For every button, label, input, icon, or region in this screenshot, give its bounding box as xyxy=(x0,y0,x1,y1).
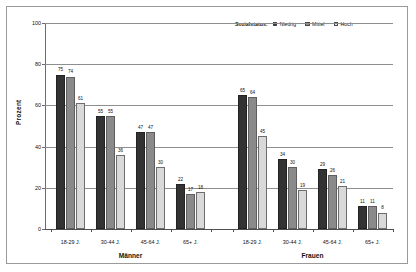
bar-group: 292621 xyxy=(317,23,348,229)
bar-slot: 26 xyxy=(328,23,337,229)
bar-value-label: 74 xyxy=(68,70,73,75)
y-tick-mark xyxy=(42,105,45,106)
plot-area: 0204060801007574615555364747302217186564… xyxy=(45,23,393,229)
y-tick-label: 20 xyxy=(15,185,41,191)
bar-group: 343019 xyxy=(277,23,308,229)
bar-value-label: 22 xyxy=(178,178,183,183)
x-category-label: 45-64 J. xyxy=(323,239,342,245)
bar-value-label: 19 xyxy=(300,184,305,189)
bar[interactable] xyxy=(358,206,367,229)
bar-value-label: 18 xyxy=(198,186,203,191)
bar-slot: 21 xyxy=(338,23,347,229)
x-tick-mark xyxy=(393,229,394,232)
bar-slot: 65 xyxy=(238,23,247,229)
x-tick-mark xyxy=(91,229,92,232)
bar-slot: 36 xyxy=(116,23,125,229)
bar[interactable] xyxy=(136,132,145,229)
bar[interactable] xyxy=(318,169,327,229)
bar-slot: 17 xyxy=(186,23,195,229)
x-tick-mark xyxy=(51,229,52,232)
bar-value-label: 47 xyxy=(138,126,143,131)
bar[interactable] xyxy=(116,155,125,229)
bar-value-label: 26 xyxy=(330,169,335,174)
x-axis-line xyxy=(45,229,393,230)
bar-value-label: 65 xyxy=(240,89,245,94)
bar[interactable] xyxy=(196,192,205,229)
x-tick-mark xyxy=(273,229,274,232)
y-tick-label: 0 xyxy=(15,226,41,232)
x-category-label: 30-44 J. xyxy=(101,239,120,245)
y-tick-mark xyxy=(42,147,45,148)
bar-slot: 55 xyxy=(106,23,115,229)
bar[interactable] xyxy=(238,95,247,229)
bar-value-label: 55 xyxy=(98,110,103,115)
bar-value-label: 75 xyxy=(58,68,63,73)
bar-slot: 19 xyxy=(298,23,307,229)
bar[interactable] xyxy=(338,186,347,229)
bar-slot: 22 xyxy=(176,23,185,229)
bar[interactable] xyxy=(176,184,185,229)
y-tick-label: 40 xyxy=(15,144,41,150)
bar-group: 474730 xyxy=(135,23,166,229)
bar[interactable] xyxy=(278,159,287,229)
bar[interactable] xyxy=(328,175,337,229)
bar-slot: 29 xyxy=(318,23,327,229)
bar-slot: 30 xyxy=(288,23,297,229)
bar-slot: 45 xyxy=(258,23,267,229)
bar-group: 11118 xyxy=(357,23,388,229)
bar[interactable] xyxy=(248,97,257,229)
bar-value-label: 47 xyxy=(148,126,153,131)
bar[interactable] xyxy=(156,167,165,229)
bar-slot: 11 xyxy=(368,23,377,229)
panel-label: Männer xyxy=(119,252,142,259)
bar-slot: 8 xyxy=(378,23,387,229)
bar[interactable] xyxy=(258,136,267,229)
bar[interactable] xyxy=(186,194,195,229)
y-tick-label: 80 xyxy=(15,61,41,67)
y-tick-mark xyxy=(42,64,45,65)
bar-group: 656445 xyxy=(237,23,268,229)
bar[interactable] xyxy=(76,103,85,229)
bar[interactable] xyxy=(96,116,105,229)
panel-label: Frauen xyxy=(302,252,324,259)
x-category-label: 65+ J. xyxy=(183,239,198,245)
bar[interactable] xyxy=(106,116,115,229)
bar-slot: 47 xyxy=(146,23,155,229)
bar-slot: 18 xyxy=(196,23,205,229)
x-category-label: 30-44 J. xyxy=(283,239,302,245)
y-tick-mark xyxy=(42,23,45,24)
chart-figure: Sozialstatus: Niedrig Mittel Hoch Prozen… xyxy=(6,6,408,264)
bar-value-label: 21 xyxy=(340,180,345,185)
bar-value-label: 8 xyxy=(381,206,384,211)
bar-group: 757461 xyxy=(55,23,86,229)
x-category-label: 45-64 J. xyxy=(141,239,160,245)
bar-value-label: 36 xyxy=(118,149,123,154)
bar-value-label: 64 xyxy=(250,91,255,96)
bar-slot: 55 xyxy=(96,23,105,229)
bar-slot: 64 xyxy=(248,23,257,229)
y-tick-label: 60 xyxy=(15,102,41,108)
y-tick-label: 100 xyxy=(15,20,41,26)
bar-slot: 47 xyxy=(136,23,145,229)
bar[interactable] xyxy=(288,167,297,229)
bar[interactable] xyxy=(368,206,377,229)
bar[interactable] xyxy=(146,132,155,229)
x-tick-mark xyxy=(353,229,354,232)
bar-group: 555536 xyxy=(95,23,126,229)
bar-value-label: 11 xyxy=(370,200,375,205)
bar[interactable] xyxy=(66,77,75,229)
bar-slot: 61 xyxy=(76,23,85,229)
bar-value-label: 55 xyxy=(108,110,113,115)
x-tick-mark xyxy=(233,229,234,232)
bar-value-label: 61 xyxy=(78,97,83,102)
bar-value-label: 45 xyxy=(260,130,265,135)
bar-value-label: 17 xyxy=(188,188,193,193)
bar[interactable] xyxy=(298,190,307,229)
x-tick-mark xyxy=(211,229,212,232)
bar-value-label: 11 xyxy=(360,200,365,205)
bar-value-label: 29 xyxy=(320,163,325,168)
bar-slot: 34 xyxy=(278,23,287,229)
bar[interactable] xyxy=(378,213,387,229)
bar[interactable] xyxy=(56,75,65,230)
bar-value-label: 30 xyxy=(290,161,295,166)
